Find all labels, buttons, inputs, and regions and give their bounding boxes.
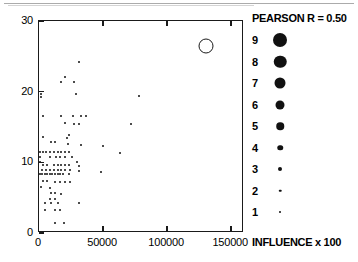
data-point: [69, 181, 71, 183]
data-point: [57, 202, 59, 204]
data-point: [49, 187, 51, 189]
outlier-point: [198, 38, 213, 53]
data-point: [42, 151, 44, 153]
data-point: [57, 164, 59, 166]
data-point: [54, 192, 56, 194]
legend-entry: 5: [252, 116, 358, 136]
data-point: [54, 181, 56, 183]
data-point: [53, 164, 55, 166]
data-point: [54, 198, 56, 200]
legend-entry-marker: [279, 211, 281, 213]
x-tick-label: 0: [35, 236, 41, 248]
data-point: [60, 169, 62, 171]
legend-entry-label: 6: [252, 99, 264, 111]
data-point: [60, 151, 62, 153]
data-point: [64, 181, 66, 183]
legend-entry: 6: [252, 95, 358, 115]
legend-footer-label: INFLUENCE x 100: [252, 236, 341, 248]
data-point: [50, 141, 52, 143]
y-axis-tick: [39, 91, 44, 93]
data-point: [78, 61, 80, 63]
data-point: [64, 169, 66, 171]
data-point: [73, 123, 75, 125]
legend-entry-label: 8: [252, 56, 264, 68]
data-point: [44, 202, 46, 204]
data-point: [119, 152, 121, 154]
data-point: [62, 173, 64, 175]
legend-entry-marker: [276, 122, 284, 130]
data-point: [49, 156, 51, 158]
data-point: [68, 164, 70, 166]
legend-entry-label: 7: [252, 77, 264, 89]
data-points-layer: [39, 21, 242, 231]
data-point: [75, 93, 77, 95]
data-point: [59, 181, 61, 183]
data-point: [54, 209, 56, 211]
data-point: [69, 169, 71, 171]
y-axis-tick: [39, 232, 44, 234]
data-point: [71, 156, 73, 158]
data-point: [42, 180, 44, 182]
data-point: [66, 137, 68, 139]
data-point: [50, 192, 52, 194]
data-point: [68, 173, 70, 175]
data-point: [60, 81, 62, 83]
data-point: [60, 193, 62, 195]
data-point: [78, 123, 80, 125]
y-tick-label: 30: [21, 14, 33, 26]
data-point: [59, 209, 61, 211]
data-point: [76, 161, 78, 163]
data-point: [44, 209, 46, 211]
data-point: [49, 169, 51, 171]
data-point: [54, 141, 56, 143]
size-legend: PEARSON R = 0.50 987654321 INFLUENCE x 1…: [252, 12, 358, 248]
legend-entry: 9: [252, 30, 358, 50]
legend-title: PEARSON R = 0.50: [252, 12, 347, 24]
x-axis-tick: [230, 226, 232, 231]
legend-entry-marker: [276, 100, 285, 109]
data-point: [59, 156, 61, 158]
scan-artifact-line-secondary: [8, 5, 254, 6]
data-point: [63, 222, 65, 224]
x-tick-label: 100000: [148, 236, 184, 248]
legend-entry: 1: [252, 202, 358, 222]
x-tick-label: 50000: [87, 236, 117, 248]
legend-entry-label: 3: [252, 163, 264, 175]
y-axis-tick: [39, 20, 44, 22]
data-point: [78, 170, 80, 172]
x-axis-tick: [102, 21, 104, 26]
data-point: [50, 202, 52, 204]
legend-entry: 8: [252, 52, 358, 72]
data-point: [64, 156, 66, 158]
x-axis-tick: [166, 21, 168, 26]
data-point: [42, 136, 44, 138]
data-point: [68, 151, 70, 153]
data-point: [78, 202, 80, 204]
x-axis-tick: [166, 226, 168, 231]
data-point: [42, 164, 44, 166]
y-tick-label: 20: [21, 85, 33, 97]
data-point: [39, 156, 41, 158]
legend-entry-label: 9: [252, 34, 264, 46]
data-point: [80, 144, 82, 146]
legend-entry: 4: [252, 138, 358, 158]
data-point: [42, 115, 44, 117]
data-point: [130, 123, 132, 125]
y-tick-label: 10: [21, 155, 33, 167]
data-point: [67, 143, 69, 145]
data-point: [72, 115, 74, 117]
plot-area: [38, 20, 243, 232]
data-point: [102, 145, 104, 147]
legend-entry: 7: [252, 73, 358, 93]
y-tick-label: 0: [27, 226, 33, 238]
data-point: [45, 169, 47, 171]
data-point: [49, 151, 51, 153]
data-point: [64, 76, 66, 78]
data-point: [68, 134, 70, 136]
legend-entry-marker: [273, 33, 287, 47]
data-point: [46, 180, 48, 182]
legend-entry-label: 4: [252, 142, 264, 154]
data-point: [57, 151, 59, 153]
data-point: [46, 164, 48, 166]
data-point: [40, 186, 42, 188]
